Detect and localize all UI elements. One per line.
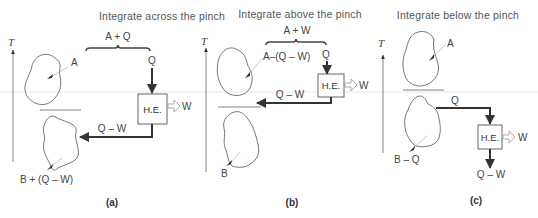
- axis-label: T: [201, 35, 208, 47]
- bottom-label: B + (Q – W): [20, 174, 73, 185]
- heat-in-label: Q: [451, 95, 459, 106]
- heat-engine-label: H.E.: [143, 104, 161, 115]
- top-label: A: [71, 57, 78, 68]
- cold-composite-blob: [224, 112, 259, 168]
- reject-label: Q – W: [276, 89, 305, 100]
- panel-title: Integrate above the pinch: [238, 8, 362, 20]
- pointer-line: [52, 158, 62, 166]
- cold-composite-blob: [43, 116, 78, 170]
- bracket-label: A + Q: [105, 31, 131, 42]
- heat-engine-label: H.E.: [322, 80, 340, 91]
- bottom-label: B: [221, 168, 228, 179]
- cold-composite-blob: [405, 96, 441, 147]
- pinch-integration-figure: Integrate across the pinch T A B + (Q – …: [0, 0, 538, 218]
- bracket: [266, 39, 326, 45]
- panel-a: Integrate across the pinch T A B + (Q – …: [8, 10, 225, 208]
- axis-label: T: [8, 36, 15, 48]
- reject-label: Q – W: [98, 123, 127, 134]
- heat-in-label: Q: [148, 55, 156, 66]
- panel-c: Integrate below the pinch T A B – Q Q H.…: [378, 9, 528, 206]
- top-label: A–(Q – W): [263, 51, 310, 62]
- bracket-label: A + W: [284, 25, 312, 36]
- bracket: [86, 45, 150, 51]
- panel-title: Integrate below the pinch: [397, 9, 519, 21]
- pointer-arrow-icon: [245, 72, 250, 78]
- pointer-arrow-icon: [409, 146, 415, 152]
- pointer-arrow-icon: [47, 74, 53, 79]
- pointer-line: [231, 152, 240, 162]
- heat-in-label: Q: [322, 49, 330, 60]
- panel-caption: (b): [286, 197, 299, 208]
- heat-in-arrow: [436, 108, 490, 124]
- work-output-arrow-icon: [168, 100, 180, 112]
- axis-label: T: [378, 37, 385, 49]
- work-label: W: [182, 101, 192, 112]
- hot-composite-blob: [25, 54, 61, 104]
- top-label: A: [447, 38, 454, 49]
- heat-engine-label: H.E.: [481, 132, 499, 143]
- pointer-line: [413, 136, 427, 148]
- reject-label: Q – W: [477, 169, 506, 180]
- work-output-arrow-icon: [345, 79, 357, 91]
- panel-caption: (c): [470, 195, 482, 206]
- work-label: W: [518, 132, 528, 143]
- pointer-arrow-icon: [429, 54, 434, 61]
- hot-composite-blob: [403, 31, 439, 86]
- work-label: W: [359, 80, 369, 91]
- work-output-arrow-icon: [503, 131, 515, 143]
- panel-b: Integrate above the pinch T A–(Q – W) B …: [201, 8, 369, 208]
- bottom-label: B – Q: [394, 154, 420, 165]
- pointer-line: [434, 44, 446, 56]
- panel-title: Integrate across the pinch: [99, 10, 225, 22]
- pointer-line: [249, 58, 263, 74]
- panel-caption: (a): [106, 197, 118, 208]
- hot-composite-blob: [217, 48, 252, 96]
